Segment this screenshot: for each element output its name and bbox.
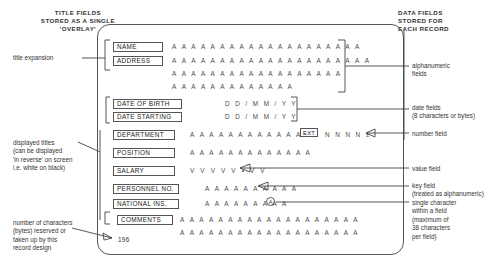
byte-count-value: 196 <box>118 236 130 243</box>
annotation-byte-count: number of characters (bytes) reserved or… <box>13 219 95 253</box>
field-data-department: A A A A A A A A A A A A A <box>190 130 312 140</box>
annotation-title-expansion: title expansion <box>13 54 83 62</box>
circled-character: A <box>266 197 275 206</box>
header-data-fields: DATA FIELDS STORED FOR EACH RECORD <box>398 9 482 34</box>
field-data-comments-1: A A A A A A A A A A A A A A A A A A A <box>180 215 360 225</box>
annotation-alphanumeric-fields: alphanumeric fields <box>412 62 482 79</box>
field-data-name: A A A A A A A A A A A A A A A A A A A A <box>172 42 361 52</box>
field-data-number: N N N N ± <box>325 130 371 140</box>
field-label-address: ADDRESS <box>113 56 163 66</box>
annotation-number-field: number field <box>412 130 482 138</box>
field-data-address-3: A A A A A A A A A A A A A <box>172 82 294 92</box>
field-data-national-ins: A A A A A A A A A <box>205 199 288 209</box>
field-label-national-ins: NATIONAL INS. <box>113 199 179 209</box>
annotation-value-field: value field <box>412 165 482 173</box>
annotation-date-fields: date fields (8 characters or bytes) <box>412 104 482 121</box>
field-data-comments-2: A A A A A A A A A A A A A A A A A A A <box>180 228 360 238</box>
annotation-key-field: key field (treated as alphanumeric) <box>412 182 484 199</box>
field-data-salary: V V V V V • V V <box>190 166 267 176</box>
field-data-address-2: A A A A A A A A A A A A A A A A A A <box>172 69 342 79</box>
field-label-department: DEPARTMENT <box>113 130 175 140</box>
field-data-personnel-no: A A A A A A A A A A <box>205 184 298 194</box>
field-label-personnel-no: PERSONNEL NO. <box>113 184 179 194</box>
annotation-displayed-titles: displayed titles (can be displayed 'in r… <box>13 139 95 173</box>
field-label-date-of-birth: DATE OF BIRTH <box>113 99 182 109</box>
field-label-comments: COMMENTS <box>117 215 173 225</box>
ext-box: EXT <box>300 128 318 137</box>
annotation-single-character: single character within a field (maximum… <box>412 199 482 241</box>
field-label-salary: SALARY <box>113 166 175 176</box>
field-data-address-1: A A A A A A A A A A A A A A A A A A A A … <box>172 56 371 66</box>
field-label-position: POSITION <box>113 148 175 158</box>
field-label-name: NAME <box>113 42 163 52</box>
field-label-date-starting: DATE STARTING <box>113 112 182 122</box>
field-data-date-starting: D D / M M / Y Y <box>225 112 298 122</box>
field-data-position: A A A A A A A A A A A A A <box>190 148 312 158</box>
field-data-date-of-birth: D D / M M / Y Y <box>225 99 298 109</box>
